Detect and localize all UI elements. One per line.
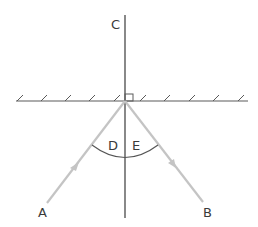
mirror-hatching (17, 95, 244, 101)
normal-label: C (111, 17, 120, 32)
plane-mirror (16, 95, 248, 101)
angle-incidence-label: D (108, 138, 118, 153)
incident-ray-label: A (38, 205, 47, 220)
reflected-ray-label: B (203, 205, 212, 220)
reflection-diagram: C D E A B (0, 0, 258, 227)
angle-reflection-label: E (132, 138, 140, 153)
reflected-arrow-icon (168, 159, 176, 168)
right-angle-marker (125, 94, 133, 101)
